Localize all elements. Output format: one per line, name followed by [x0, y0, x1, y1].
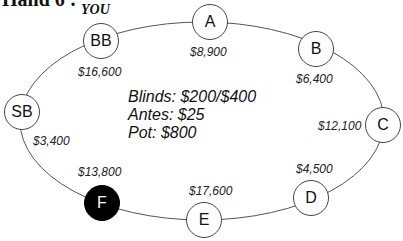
seat-bb: BB: [83, 23, 119, 59]
hero-label: YOU: [81, 2, 110, 18]
seat-e: E: [186, 202, 222, 238]
seat-d: D: [293, 180, 329, 216]
stack-a: $8,900: [190, 45, 227, 59]
stack-sb: $3,400: [33, 134, 70, 148]
seat-a: A: [192, 4, 228, 40]
pot-text: Pot: $800: [128, 124, 256, 142]
stack-e: $17,600: [189, 184, 232, 198]
stack-c: $12,100: [318, 119, 361, 133]
stack-b: $6,400: [296, 72, 333, 86]
seat-c: C: [365, 107, 401, 143]
stack-bb: $16,600: [78, 65, 121, 79]
seat-sb: SB: [4, 94, 40, 130]
game-info: Blinds: $200/$400 Antes: $25 Pot: $800: [128, 88, 256, 142]
seat-b: B: [298, 31, 334, 67]
stack-f: $13,800: [78, 165, 121, 179]
seat-f: F: [84, 185, 120, 221]
blinds-text: Blinds: $200/$400: [128, 88, 256, 106]
antes-text: Antes: $25: [128, 106, 256, 124]
stack-d: $4,500: [296, 162, 333, 176]
